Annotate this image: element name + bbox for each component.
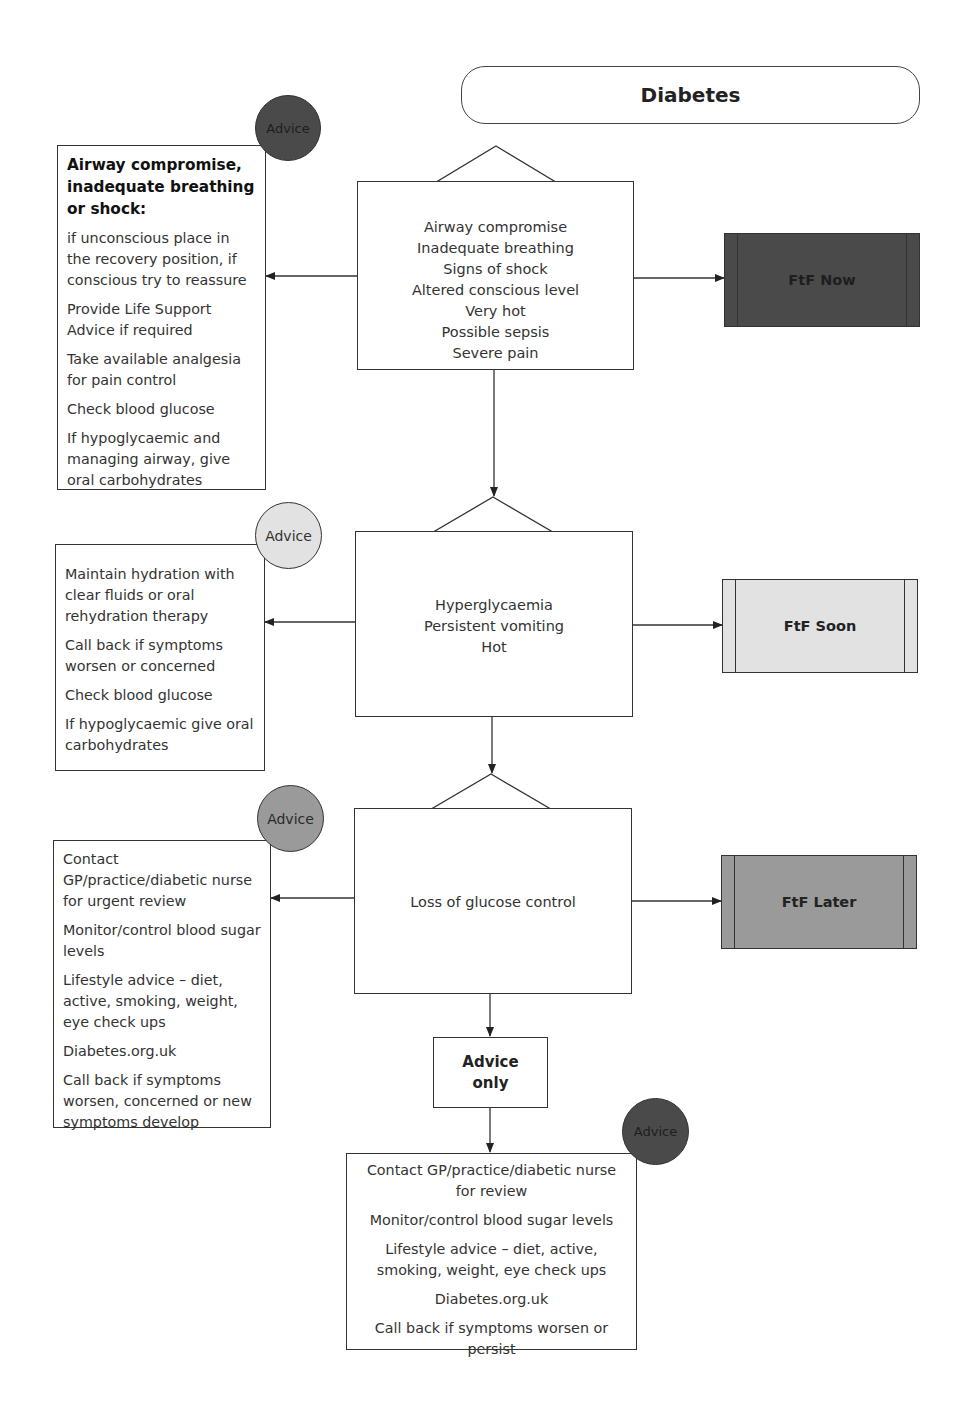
advice-box-3: Contact GP/practice/diabetic nurse for u…	[53, 840, 271, 1128]
outcome-label: FtF Later	[782, 894, 857, 910]
criteria-box-1: Airway compromise Inadequate breathing S…	[357, 181, 634, 370]
advice-box-1: Airway compromise, inadequate breathing …	[57, 145, 266, 490]
advice-item: Monitor/control blood sugar levels	[63, 920, 261, 962]
criteria-item: Airway compromise	[358, 217, 633, 238]
outcome-bar-left	[722, 856, 735, 948]
outcome-label: FtF Soon	[784, 618, 856, 634]
outcome-label: FtF Now	[788, 272, 855, 288]
advice-item: Maintain hydration with clear fluids or …	[65, 564, 255, 627]
advice-badge-light: Advice	[255, 502, 322, 569]
advice-item: Contact GP/practice/diabetic nurse for u…	[63, 849, 261, 912]
criteria-item: Altered conscious level	[358, 280, 633, 301]
criteria-item: Severe pain	[358, 343, 633, 364]
advice-badge-dark: Advice	[255, 95, 321, 161]
advice-only-details: Contact GP/practice/diabetic nurse for r…	[346, 1153, 637, 1350]
outcome-bar-right	[904, 580, 917, 672]
advice-heading: Airway compromise, inadequate breathing …	[67, 154, 256, 220]
advice-item: Provide Life Support Advice if required	[67, 299, 256, 341]
outcome-bar-right	[903, 856, 916, 948]
advice-only-box: Advice only	[433, 1037, 548, 1108]
criteria-box-3: Loss of glucose control	[354, 808, 632, 994]
advice-item: Take available analgesia for pain contro…	[67, 349, 256, 391]
advice-item: Monitor/control blood sugar levels	[355, 1210, 628, 1231]
advice-item: Check blood glucose	[65, 685, 255, 706]
advice-item: Call back if symptoms worsen or concerne…	[65, 635, 255, 677]
advice-only-label: Advice only	[456, 1052, 526, 1094]
criteria-item: Hyperglycaemia	[356, 595, 632, 616]
outcome-ftf-now: FtF Now	[724, 233, 920, 327]
advice-item: Lifestyle advice – diet, active, smoking…	[63, 970, 261, 1033]
advice-item: If hypoglycaemic and managing airway, gi…	[67, 428, 256, 491]
criteria-item: Inadequate breathing	[358, 238, 633, 259]
advice-item: if unconscious place in the recovery pos…	[67, 228, 256, 291]
criteria-item: Loss of glucose control	[355, 892, 631, 913]
criteria-item: Possible sepsis	[358, 322, 633, 343]
advice-item: Check blood glucose	[67, 399, 256, 420]
criteria-item: Signs of shock	[358, 259, 633, 280]
outcome-ftf-soon: FtF Soon	[722, 579, 918, 673]
outcome-bar-left	[723, 580, 736, 672]
advice-item: Call back if symptoms worsen, concerned …	[63, 1070, 261, 1133]
advice-item: Contact GP/practice/diabetic nurse for r…	[355, 1160, 628, 1202]
advice-item: Call back if symptoms worsen or persist	[355, 1318, 628, 1360]
outcome-bar-right	[906, 234, 919, 326]
advice-item: If hypoglycaemic give oral carbohydrates	[65, 714, 255, 756]
advice-item: Diabetes.org.uk	[63, 1041, 261, 1062]
criteria-item: Persistent vomiting	[356, 616, 632, 637]
advice-item: Diabetes.org.uk	[355, 1289, 628, 1310]
advice-box-2: Maintain hydration with clear fluids or …	[55, 544, 265, 771]
advice-badge-dark-final: Advice	[622, 1098, 689, 1165]
advice-item: Lifestyle advice – diet, active, smoking…	[355, 1239, 628, 1281]
outcome-ftf-later: FtF Later	[721, 855, 917, 949]
criteria-box-2: Hyperglycaemia Persistent vomiting Hot	[355, 531, 633, 717]
criteria-item: Very hot	[358, 301, 633, 322]
outcome-bar-left	[725, 234, 738, 326]
advice-badge-medium: Advice	[257, 785, 324, 852]
criteria-item: Hot	[356, 637, 632, 658]
flowchart-title: Diabetes	[461, 66, 920, 124]
